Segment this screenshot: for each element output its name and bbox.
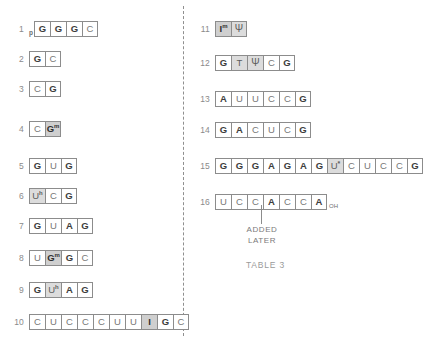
base-label: A bbox=[300, 161, 307, 171]
base-cell: C bbox=[279, 194, 295, 210]
base-label: G bbox=[81, 221, 88, 231]
base-cell: G bbox=[61, 158, 77, 174]
row-number: 2 bbox=[6, 55, 24, 64]
base-label: Ψ bbox=[235, 24, 243, 34]
base-cell: G bbox=[61, 188, 77, 204]
base-label: G bbox=[316, 161, 323, 171]
base-label: C bbox=[348, 161, 355, 171]
base-cell: C bbox=[375, 158, 391, 174]
base-label: C bbox=[82, 317, 89, 327]
base-superscript: m bbox=[55, 252, 60, 258]
base-cell: G bbox=[295, 91, 311, 107]
sequence-row: 9GUhAG bbox=[6, 280, 93, 300]
base-label: U bbox=[252, 94, 259, 104]
base-label: A bbox=[220, 94, 227, 104]
base-cell: A bbox=[215, 91, 231, 107]
base-chain: GACUCG bbox=[215, 122, 311, 138]
base-cell: Gm bbox=[45, 121, 61, 137]
base-chain: AUUCCG bbox=[215, 91, 311, 107]
base-label: C bbox=[236, 197, 243, 207]
base-label: U bbox=[32, 191, 39, 201]
sequence-row: 2GC bbox=[6, 49, 61, 69]
base-cell: C bbox=[29, 314, 45, 330]
base-label: C bbox=[396, 161, 403, 171]
base-label: G bbox=[47, 124, 54, 134]
row-number: 7 bbox=[6, 222, 24, 231]
base-label: C bbox=[284, 197, 291, 207]
sequence-row: 8UGmGC bbox=[6, 248, 93, 268]
base-chain: CGm bbox=[29, 121, 61, 137]
base-label: G bbox=[71, 24, 78, 34]
row-number: 10 bbox=[6, 318, 24, 327]
base-cell: C bbox=[45, 51, 61, 67]
base-cell: C bbox=[29, 81, 45, 97]
sequence-prefix-label: p bbox=[29, 29, 33, 36]
row-number: 14 bbox=[192, 126, 210, 135]
row-number: 4 bbox=[6, 125, 24, 134]
base-cell: G bbox=[29, 158, 45, 174]
base-label: G bbox=[34, 221, 41, 231]
base-cell: Im bbox=[215, 21, 231, 37]
base-label: G bbox=[55, 24, 62, 34]
base-cell: G bbox=[45, 81, 61, 97]
base-cell: G bbox=[66, 21, 82, 37]
base-label: C bbox=[66, 317, 73, 327]
base-chain: CUCCCUUIGC bbox=[29, 314, 189, 330]
sequence-suffix-label: OH bbox=[329, 203, 338, 209]
base-chain: GUG bbox=[29, 158, 77, 174]
base-label: U bbox=[48, 285, 55, 295]
base-label: C bbox=[50, 191, 57, 201]
column-divider bbox=[183, 6, 184, 336]
base-cell: G bbox=[279, 158, 295, 174]
sequence-row: 5GUG bbox=[6, 156, 77, 176]
base-cell: Uh bbox=[29, 188, 45, 204]
base-cell: G bbox=[61, 250, 77, 266]
base-label: C bbox=[87, 24, 94, 34]
base-cell: G bbox=[34, 21, 50, 37]
base-cell: A bbox=[263, 194, 279, 210]
base-cell: A bbox=[61, 282, 77, 298]
base-cell: C bbox=[343, 158, 359, 174]
base-cell: C bbox=[173, 314, 189, 330]
base-cell: G bbox=[77, 282, 93, 298]
base-cell: C bbox=[279, 122, 295, 138]
base-chain: GUhAG bbox=[29, 282, 93, 298]
base-cell: U bbox=[45, 314, 61, 330]
base-cell: C bbox=[263, 91, 279, 107]
sequence-row: 16UCCACCAOH bbox=[192, 192, 338, 212]
sequence-row: 10CUCCCUUIGC bbox=[6, 312, 189, 332]
base-label: A bbox=[66, 285, 73, 295]
base-superscript: h bbox=[55, 284, 59, 290]
base-label: T bbox=[237, 58, 243, 68]
base-cell: G bbox=[231, 158, 247, 174]
row-number: 3 bbox=[6, 85, 24, 94]
base-chain: GTΨCG bbox=[215, 55, 295, 71]
base-chain: GGGAGAGU*CUCCG bbox=[215, 158, 423, 174]
base-cell: C bbox=[29, 121, 45, 137]
base-cell: U bbox=[45, 218, 61, 234]
sequence-row: 1pGGGC bbox=[6, 19, 98, 39]
base-cell: G bbox=[157, 314, 173, 330]
base-label: G bbox=[65, 161, 72, 171]
base-label: C bbox=[284, 94, 291, 104]
base-label: U bbox=[34, 253, 41, 263]
base-cell: A bbox=[231, 122, 247, 138]
base-cell: G bbox=[279, 55, 295, 71]
row-number: 16 bbox=[192, 198, 210, 207]
annotation-leader-line bbox=[261, 205, 262, 224]
base-label: U bbox=[331, 161, 338, 171]
base-label: G bbox=[283, 58, 290, 68]
base-label: G bbox=[299, 94, 306, 104]
base-superscript: h bbox=[39, 190, 43, 196]
base-label: U bbox=[236, 94, 243, 104]
base-cell: C bbox=[391, 158, 407, 174]
base-cell: G bbox=[77, 218, 93, 234]
base-cell: G bbox=[247, 158, 263, 174]
base-superscript: m bbox=[222, 23, 227, 29]
row-number: 13 bbox=[192, 95, 210, 104]
base-label: C bbox=[284, 125, 291, 135]
annotation-label: ADDED LATER bbox=[226, 225, 298, 246]
base-label: U bbox=[130, 317, 137, 327]
base-label: I bbox=[148, 317, 151, 327]
base-label: G bbox=[252, 161, 259, 171]
